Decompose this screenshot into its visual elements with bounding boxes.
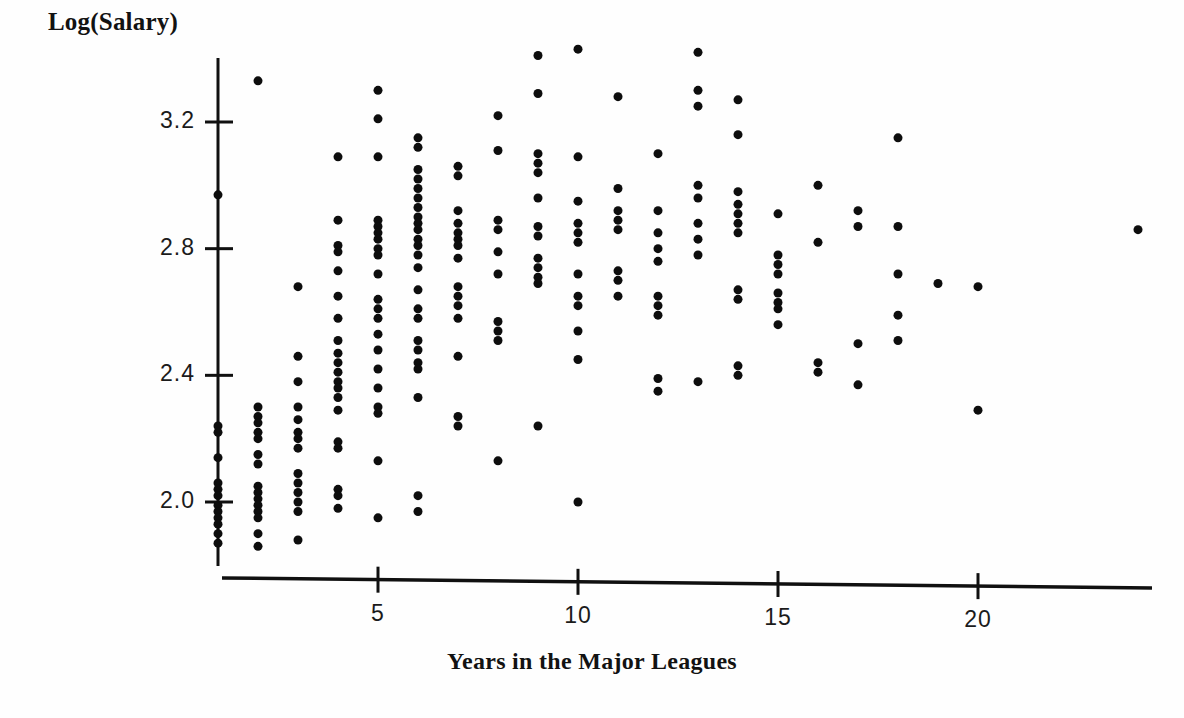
data-point: [254, 450, 263, 459]
scatter-plot-figure: Log(Salary) 2.02.42.83.2 5101520 Years i…: [0, 0, 1184, 718]
data-point: [374, 304, 383, 313]
data-point: [374, 409, 383, 418]
y-axis-tick-label: 3.2: [125, 107, 195, 134]
data-point: [414, 346, 423, 355]
data-point: [494, 317, 503, 326]
data-point: [454, 162, 463, 171]
data-point: [734, 200, 743, 209]
data-point: [454, 171, 463, 180]
data-point: [294, 444, 303, 453]
data-point: [214, 453, 223, 462]
y-axis-tick-label: 2.8: [125, 234, 195, 261]
data-point: [494, 456, 503, 465]
data-point: [774, 251, 783, 260]
data-point: [654, 292, 663, 301]
data-point: [294, 377, 303, 386]
data-point: [294, 507, 303, 516]
data-point: [534, 222, 543, 231]
data-point: [774, 320, 783, 329]
data-point: [334, 444, 343, 453]
data-point: [334, 216, 343, 225]
data-point: [614, 276, 623, 285]
data-point: [574, 327, 583, 336]
data-point: [414, 304, 423, 313]
data-point: [654, 206, 663, 215]
data-point: [374, 314, 383, 323]
data-point: [534, 254, 543, 263]
data-point: [414, 263, 423, 272]
data-point: [894, 133, 903, 142]
data-point: [694, 251, 703, 260]
data-point: [454, 254, 463, 263]
data-point: [894, 336, 903, 345]
data-point: [614, 92, 623, 101]
data-point: [694, 235, 703, 244]
data-point: [334, 314, 343, 323]
data-point: [934, 279, 943, 288]
data-point: [214, 520, 223, 529]
data-point: [294, 282, 303, 291]
data-point: [534, 194, 543, 203]
data-point: [574, 301, 583, 310]
data-point: [254, 513, 263, 522]
data-point: [494, 146, 503, 155]
data-point: [734, 95, 743, 104]
data-point: [534, 149, 543, 158]
data-point: [734, 219, 743, 228]
data-point: [574, 270, 583, 279]
data-point: [294, 352, 303, 361]
data-point: [414, 241, 423, 250]
data-point: [654, 257, 663, 266]
data-point: [734, 361, 743, 370]
data-point: [534, 232, 543, 241]
data-point: [414, 365, 423, 374]
data-point: [334, 292, 343, 301]
data-point: [654, 301, 663, 310]
data-point: [1134, 225, 1143, 234]
data-point: [574, 152, 583, 161]
data-point: [494, 111, 503, 120]
data-point: [414, 314, 423, 323]
data-point: [254, 403, 263, 412]
data-point: [334, 336, 343, 345]
data-point: [214, 529, 223, 538]
data-point: [574, 498, 583, 507]
data-point: [374, 295, 383, 304]
data-point: [294, 479, 303, 488]
data-point: [254, 434, 263, 443]
data-point: [414, 143, 423, 152]
y-axis-tick-label: 2.0: [125, 487, 195, 514]
data-point: [774, 270, 783, 279]
data-point: [774, 289, 783, 298]
x-axis-title: Years in the Major Leagues: [0, 648, 1184, 675]
data-point: [454, 292, 463, 301]
data-point: [774, 209, 783, 218]
data-point: [414, 251, 423, 260]
data-point: [454, 422, 463, 431]
data-point: [374, 384, 383, 393]
data-point: [414, 203, 423, 212]
data-point: [214, 190, 223, 199]
data-point: [254, 529, 263, 538]
data-point: [454, 241, 463, 250]
data-point: [414, 225, 423, 234]
data-point: [494, 270, 503, 279]
data-point: [734, 285, 743, 294]
data-point: [214, 428, 223, 437]
axis-lines: [218, 58, 1152, 588]
data-point: [454, 282, 463, 291]
data-point: [694, 102, 703, 111]
data-point: [854, 206, 863, 215]
data-point: [574, 238, 583, 247]
data-point: [534, 159, 543, 168]
data-point: [414, 285, 423, 294]
data-point: [254, 460, 263, 469]
data-point: [334, 393, 343, 402]
data-point: [334, 406, 343, 415]
data-point: [614, 216, 623, 225]
data-point: [374, 152, 383, 161]
data-point: [534, 279, 543, 288]
data-point: [614, 206, 623, 215]
data-point: [414, 194, 423, 203]
data-point: [334, 368, 343, 377]
